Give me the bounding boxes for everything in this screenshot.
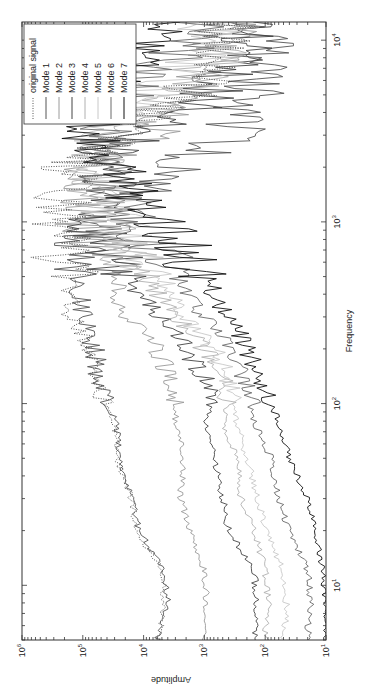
legend-label: Mode 1 <box>41 63 51 93</box>
legend: original signalMode 1Mode 2Mode 3Mode 4M… <box>24 24 136 124</box>
legend-label: Mode 5 <box>93 63 103 93</box>
y-tick-label: 102 <box>259 643 270 657</box>
y-tick-label: 103 <box>198 643 209 657</box>
legend-label: Mode 3 <box>67 63 77 93</box>
chart-svg: 101102103104101102103104105106 Frequency… <box>0 0 371 685</box>
chart-figure: 101102103104101102103104105106 Frequency… <box>0 0 371 685</box>
x-tick-label: 101 <box>331 578 342 592</box>
y-tick-label: 104 <box>138 643 149 657</box>
x-tick-label: 103 <box>331 215 342 229</box>
legend-label: Mode 6 <box>106 63 116 93</box>
x-tick-label: 104 <box>331 33 342 47</box>
y-tick-label: 101 <box>320 643 331 657</box>
y-tick-label: 106 <box>16 643 27 657</box>
x-tick-label: 102 <box>331 396 342 410</box>
x-axis-label: Frequency <box>344 309 354 352</box>
legend-label: Mode 7 <box>119 63 129 93</box>
y-axis-label: Amplitude <box>151 675 191 685</box>
y-tick-label: 105 <box>77 643 88 657</box>
legend-label: Mode 4 <box>80 63 90 93</box>
legend-label: Mode 2 <box>54 63 64 93</box>
legend-label: original signal <box>28 38 38 93</box>
